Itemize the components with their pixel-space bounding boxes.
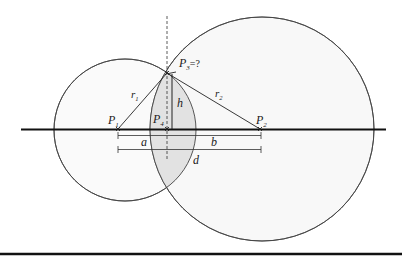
label-b: b xyxy=(211,135,217,149)
label-h: h xyxy=(177,96,183,110)
label-d: d xyxy=(193,153,200,167)
circle-intersection-diagram: P1 P2 P3=? P4 r1 r2 h a b d xyxy=(0,0,402,260)
label-a: a xyxy=(141,135,147,149)
